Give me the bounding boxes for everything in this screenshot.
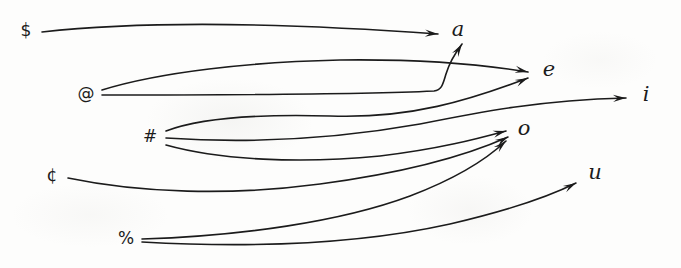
source-symbol-percent: % [118,230,134,247]
source-symbol-dollar: $ [21,22,32,39]
edge-at-e [102,60,529,90]
edge-hash-o [166,128,507,161]
edge-at-a [102,42,465,95]
arrowhead [563,180,578,192]
edge-curve [42,25,438,34]
source-symbol-cent: ¢ [47,167,58,184]
arrowhead [493,128,507,138]
diagram-canvas: $@#¢%aeiou [0,0,681,268]
source-symbol-hash: # [143,128,157,145]
edge-cent-o [68,134,510,192]
target-vowel-e: e [543,59,555,80]
edge-curve [166,78,528,131]
edge-curve [102,60,528,90]
edge-curve [102,44,462,95]
target-vowel-i: i [643,84,650,105]
arrowhead [515,75,530,87]
source-symbol-at: @ [78,85,95,102]
arrow-layer [0,0,681,268]
target-vowel-a: a [452,19,465,40]
edge-curve [166,98,626,140]
edge-dollar-a [42,25,438,38]
target-vowel-u: u [588,162,602,183]
edge-hash-e [166,75,529,131]
target-vowel-o: o [518,118,531,139]
